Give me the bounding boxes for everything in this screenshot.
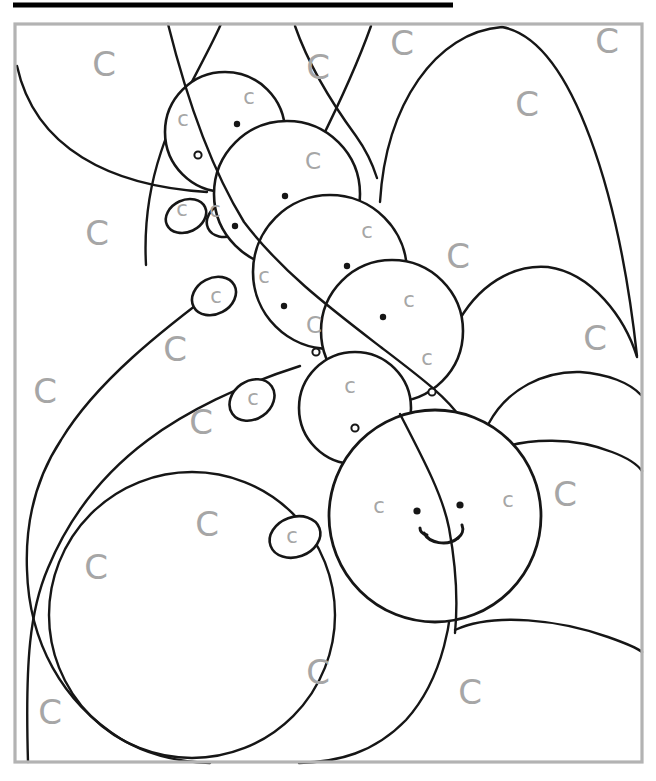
region-letter-small: c	[177, 107, 189, 131]
eye-dot	[456, 501, 463, 508]
region-letter-big: C	[84, 547, 108, 587]
region-letter-small: c	[209, 198, 221, 222]
marker-dot	[282, 193, 288, 199]
region-letter-big: C	[306, 47, 330, 87]
marker-ring-dot	[312, 348, 319, 355]
region-letter-big: C	[583, 318, 607, 358]
region-letter-big: C	[189, 402, 213, 442]
region-letter-big: C	[306, 652, 330, 692]
marker-ring-dot	[428, 388, 435, 395]
region-letter-big: C	[515, 84, 539, 124]
region-letter-big: C	[553, 474, 577, 514]
marker-dot	[232, 223, 238, 229]
coloring-canvas: CCCCCCCCCCCCCCCCCCCcccccccccccccc	[0, 0, 656, 781]
region-letter-small: c	[373, 494, 385, 518]
region-letter-small: c	[403, 288, 415, 312]
region-letter-small: c	[176, 197, 188, 221]
region-letter-big: C	[390, 23, 414, 63]
marker-dot	[281, 303, 287, 309]
region-letter-big: C	[33, 371, 57, 411]
region-letter-big: C	[195, 504, 219, 544]
region-letter-big: C	[163, 329, 187, 369]
region-letter-medium: C	[306, 312, 322, 338]
region-letter-small: c	[258, 264, 270, 288]
region-letter-small: c	[502, 488, 514, 512]
region-letter-big: C	[85, 213, 109, 253]
marker-ring-dot	[194, 151, 201, 158]
marker-dot	[380, 314, 386, 320]
marker-dot	[344, 263, 350, 269]
region-letter-small: c	[243, 85, 255, 109]
region-letter-small: c	[361, 219, 373, 243]
region-letter-big: C	[92, 44, 116, 84]
region-letter-big: C	[595, 21, 619, 61]
marker-dot	[234, 121, 240, 127]
region-letter-small: c	[421, 346, 433, 370]
region-letter-small: c	[344, 374, 356, 398]
coloring-page: CCCCCCCCCCCCCCCCCCCcccccccccccccc	[0, 0, 656, 781]
eye-dot	[413, 507, 420, 514]
caterpillar-head	[329, 410, 541, 622]
region-letter-medium: C	[305, 148, 321, 174]
region-letter-big: C	[458, 672, 482, 712]
region-letter-small: c	[286, 524, 298, 548]
region-letter-big: C	[446, 236, 470, 276]
region-letter-small: c	[210, 284, 222, 308]
region-letter-big: C	[38, 692, 62, 732]
region-letter-small: c	[247, 386, 259, 410]
marker-ring-dot	[351, 424, 358, 431]
